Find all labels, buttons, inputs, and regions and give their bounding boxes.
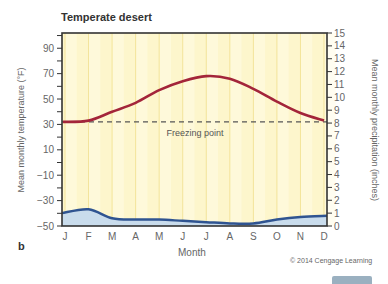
- svg-text:4: 4: [334, 169, 340, 180]
- svg-text:M: M: [108, 231, 116, 242]
- svg-text:70: 70: [43, 68, 55, 79]
- svg-text:14: 14: [334, 40, 346, 51]
- svg-text:1: 1: [334, 208, 340, 219]
- corner-tab: [332, 276, 372, 284]
- svg-text:90: 90: [43, 43, 55, 54]
- svg-text:F: F: [85, 231, 91, 242]
- svg-text:J: J: [180, 231, 185, 242]
- svg-text:12: 12: [334, 66, 346, 77]
- svg-text:O: O: [273, 231, 281, 242]
- left-axis-label: Mean monthly temperature (°F): [16, 65, 26, 195]
- x-axis-label: Month: [178, 247, 206, 258]
- svg-text:3: 3: [334, 182, 340, 193]
- svg-text:−10: −10: [37, 170, 54, 181]
- svg-text:−50: −50: [37, 221, 54, 232]
- svg-text:M: M: [155, 231, 163, 242]
- svg-text:J: J: [63, 231, 68, 242]
- copyright: © 2014 Cengage Learning: [290, 257, 372, 264]
- svg-text:10: 10: [334, 92, 346, 103]
- x-axis-month-labels: JFMAMJJASOND: [63, 231, 328, 242]
- svg-text:A: A: [132, 231, 139, 242]
- svg-text:7: 7: [334, 130, 340, 141]
- svg-text:50: 50: [43, 94, 55, 105]
- svg-text:0: 0: [334, 221, 340, 232]
- svg-text:S: S: [250, 231, 257, 242]
- svg-text:−30: −30: [37, 195, 54, 206]
- svg-text:J: J: [204, 231, 209, 242]
- svg-text:9: 9: [334, 105, 340, 116]
- svg-text:13: 13: [334, 53, 346, 64]
- right-axis-label: Mean monthly precipitation (inches): [370, 45, 380, 215]
- panel-label: b: [18, 240, 25, 252]
- svg-text:6: 6: [334, 143, 340, 154]
- svg-text:5: 5: [334, 156, 340, 167]
- svg-text:11: 11: [334, 79, 345, 90]
- svg-text:15: 15: [334, 28, 346, 39]
- svg-text:30: 30: [43, 119, 55, 130]
- svg-text:10: 10: [43, 144, 55, 155]
- svg-text:2: 2: [334, 195, 340, 206]
- svg-text:D: D: [320, 231, 327, 242]
- svg-text:N: N: [297, 231, 304, 242]
- svg-text:8: 8: [334, 118, 340, 129]
- freezing-point-label: Freezing point: [166, 128, 224, 138]
- left-y-axis: 9070503010−10−30−50: [37, 36, 62, 232]
- svg-text:A: A: [226, 231, 233, 242]
